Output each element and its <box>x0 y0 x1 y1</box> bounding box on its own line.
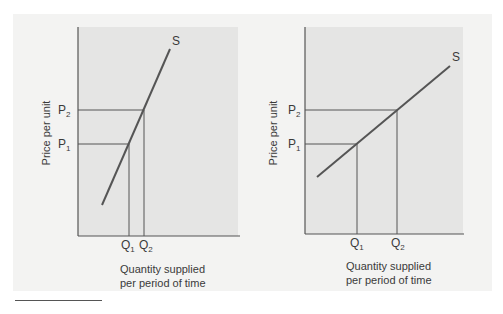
left-curve-label: S <box>172 34 180 48</box>
right-x-axis-label-2: per period of time <box>346 274 432 286</box>
left-chart: S P2 P1 Q1 Q2 Quantity supplied per peri… <box>40 27 240 289</box>
left-q1-label: Q1 <box>121 238 135 254</box>
supply-elasticity-figure: S P2 P1 Q1 Q2 Quantity supplied per peri… <box>0 0 503 314</box>
right-chart: S P2 P1 Q1 Q2 Quantity supplied per peri… <box>267 27 464 286</box>
left-x-axis-label-1: Quantity supplied <box>120 263 205 275</box>
left-q2-label: Q2 <box>139 238 153 254</box>
right-p2-label: P2 <box>288 103 301 119</box>
right-q1-label: Q1 <box>350 236 364 252</box>
left-y-axis-label: Price per unit <box>40 101 52 166</box>
left-x-axis-label-2: per period of time <box>120 277 206 289</box>
right-q2-label: Q2 <box>391 236 405 252</box>
left-p2-label: P2 <box>58 103 71 119</box>
right-plot-area <box>305 27 463 234</box>
right-x-axis-label-1: Quantity supplied <box>346 260 431 272</box>
right-curve-label: S <box>452 50 460 64</box>
right-p1-label: P1 <box>288 137 301 153</box>
right-y-axis-label: Price per unit <box>267 101 279 166</box>
footnote-rule <box>15 300 102 301</box>
left-p1-label: P1 <box>58 137 71 153</box>
